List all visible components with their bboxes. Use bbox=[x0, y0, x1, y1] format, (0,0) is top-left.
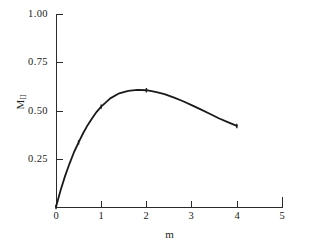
chart-figure: 1.00 0.75 0.50 0.25 0 1 2 3 4 5 MII m bbox=[0, 0, 309, 249]
chart-plot-svg bbox=[0, 0, 309, 249]
data-series-curve bbox=[56, 90, 237, 207]
data-point-markers bbox=[56, 88, 237, 209]
